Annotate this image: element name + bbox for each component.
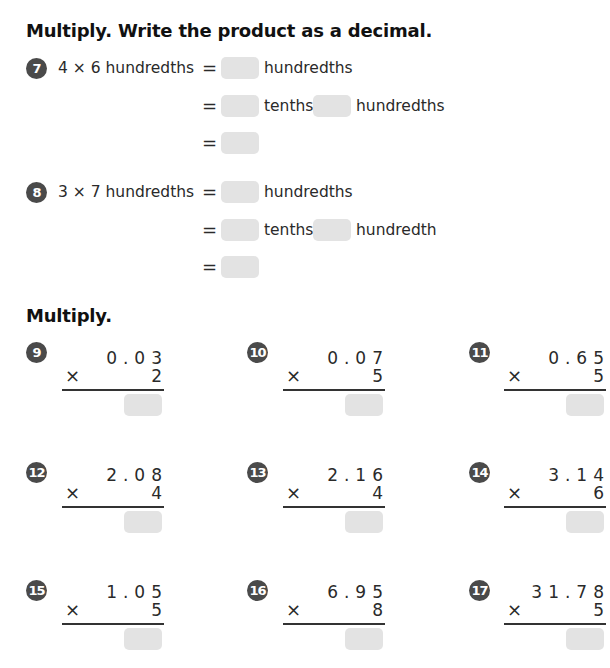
times-sign: × xyxy=(507,600,522,620)
problem-number-badge: 7 xyxy=(26,58,47,79)
problem-number-badge: 12 xyxy=(26,462,47,483)
divider-line xyxy=(62,389,164,391)
section-heading-decimal: Multiply. Write the product as a decimal… xyxy=(26,20,432,41)
vertical-multiplication: 31.78 × 5 xyxy=(504,582,606,662)
answer-box[interactable] xyxy=(221,181,259,203)
times-sign: × xyxy=(286,600,301,620)
times-sign: × xyxy=(286,366,301,386)
divider-line xyxy=(504,389,606,391)
answer-box[interactable] xyxy=(221,256,259,278)
answer-box[interactable] xyxy=(221,95,259,117)
problem-number-badge: 13 xyxy=(247,462,268,483)
answer-box[interactable] xyxy=(221,57,259,79)
multiplicand: 6.95 xyxy=(327,582,389,602)
answer-box[interactable] xyxy=(124,628,162,650)
divider-line xyxy=(62,506,164,508)
vertical-multiplication: 3.14 × 6 xyxy=(504,465,606,545)
multiplier: 2 xyxy=(151,366,162,386)
problem-number-badge: 14 xyxy=(469,462,490,483)
multiplicand: 3.14 xyxy=(548,465,610,485)
vertical-multiplication: 2.08 × 4 xyxy=(62,465,164,545)
multiplicand: 2.16 xyxy=(327,465,389,485)
problem-expression: 3 × 7 hundredths xyxy=(58,181,194,203)
answer-box[interactable] xyxy=(345,511,383,533)
answer-box[interactable] xyxy=(313,219,351,241)
answer-box[interactable] xyxy=(566,511,604,533)
divider-line xyxy=(283,623,385,625)
answer-box[interactable] xyxy=(566,628,604,650)
multiplicand: 0.07 xyxy=(327,348,389,368)
section-heading-multiply: Multiply. xyxy=(26,305,112,326)
equals-sign: = xyxy=(202,95,217,117)
unit-label: tenths xyxy=(264,219,313,241)
answer-box[interactable] xyxy=(313,95,351,117)
times-sign: × xyxy=(507,483,522,503)
multiplier: 6 xyxy=(593,483,604,503)
unit-label: hundredth xyxy=(356,219,437,241)
times-sign: × xyxy=(507,366,522,386)
problem-number-badge: 16 xyxy=(247,580,268,601)
vertical-multiplication: 0.03 × 2 xyxy=(62,348,164,428)
multiplier: 5 xyxy=(593,366,604,386)
unit-label: hundredths xyxy=(264,181,353,203)
multiplicand: 2.08 xyxy=(106,465,168,485)
times-sign: × xyxy=(65,483,80,503)
multiplier: 4 xyxy=(372,483,383,503)
equals-sign: = xyxy=(202,256,217,278)
times-sign: × xyxy=(286,483,301,503)
multiplier: 5 xyxy=(372,366,383,386)
multiplier: 8 xyxy=(372,600,383,620)
problem-number-badge: 11 xyxy=(469,342,490,363)
equals-sign: = xyxy=(202,132,217,154)
answer-box[interactable] xyxy=(345,394,383,416)
vertical-multiplication: 1.05 × 5 xyxy=(62,582,164,662)
problem-number-badge: 15 xyxy=(26,580,47,601)
answer-box[interactable] xyxy=(221,219,259,241)
divider-line xyxy=(283,389,385,391)
vertical-multiplication: 0.65 × 5 xyxy=(504,348,606,428)
answer-box[interactable] xyxy=(124,511,162,533)
answer-box[interactable] xyxy=(566,394,604,416)
answer-box[interactable] xyxy=(221,132,259,154)
times-sign: × xyxy=(65,600,80,620)
vertical-multiplication: 6.95 × 8 xyxy=(283,582,385,662)
multiplier: 5 xyxy=(593,600,604,620)
equals-sign: = xyxy=(202,57,217,79)
divider-line xyxy=(504,506,606,508)
multiplier: 5 xyxy=(151,600,162,620)
equals-sign: = xyxy=(202,181,217,203)
answer-box[interactable] xyxy=(345,628,383,650)
answer-box[interactable] xyxy=(124,394,162,416)
times-sign: × xyxy=(65,366,80,386)
unit-label: hundredths xyxy=(264,57,353,79)
multiplicand: 0.65 xyxy=(548,348,610,368)
problem-number-badge: 10 xyxy=(247,342,268,363)
equals-sign: = xyxy=(202,219,217,241)
multiplier: 4 xyxy=(151,483,162,503)
multiplicand: 0.03 xyxy=(106,348,168,368)
multiplicand: 31.78 xyxy=(531,582,610,602)
problem-number-badge: 17 xyxy=(469,580,490,601)
unit-label: tenths xyxy=(264,95,313,117)
divider-line xyxy=(283,506,385,508)
vertical-multiplication: 2.16 × 4 xyxy=(283,465,385,545)
problem-number-badge: 9 xyxy=(26,342,47,363)
multiplicand: 1.05 xyxy=(106,582,168,602)
vertical-multiplication: 0.07 × 5 xyxy=(283,348,385,428)
unit-label: hundredths xyxy=(356,95,445,117)
divider-line xyxy=(504,623,606,625)
divider-line xyxy=(62,623,164,625)
problem-number-badge: 8 xyxy=(26,182,47,203)
problem-expression: 4 × 6 hundredths xyxy=(58,57,194,79)
